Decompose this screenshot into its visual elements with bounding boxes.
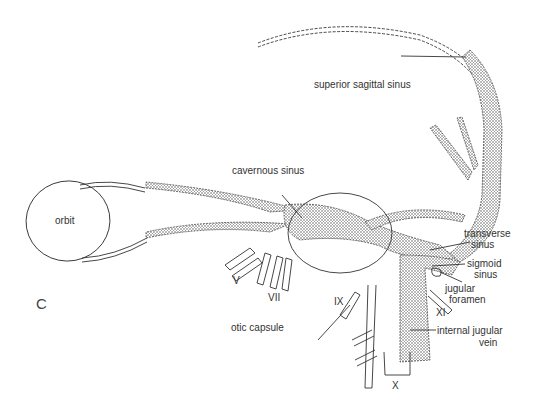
label-sigmoid-line1: sigmoid	[467, 258, 501, 269]
label-ijv-line2: vein	[479, 337, 497, 348]
label-sigmoid-line2: sinus	[474, 269, 497, 280]
label-ijv-line1: internal jugular	[437, 325, 503, 336]
label-superior-sagittal-sinus: superior sagittal sinus	[314, 79, 411, 90]
label-nerve-XI: XI	[436, 307, 445, 318]
label-nerve-IX: IX	[334, 296, 343, 307]
label-orbit: orbit	[55, 215, 74, 226]
panel-letter: C	[36, 298, 47, 309]
label-otic-capsule: otic capsule	[231, 322, 284, 333]
venous-sinus-diagram: superior sagittal sinus cavernous sinus …	[0, 0, 539, 406]
label-jugular-line2: foramen	[449, 294, 486, 305]
superior-sagittal-sinus-arc	[258, 27, 500, 120]
diagram-drawing	[0, 0, 539, 406]
label-nerve-VII: VII	[268, 292, 280, 303]
label-nerve-X: X	[392, 380, 399, 391]
label-transverse-line1: transverse	[464, 228, 511, 239]
label-jugular-line1: jugular	[445, 283, 475, 294]
label-cavernous-sinus: cavernous sinus	[232, 165, 304, 176]
label-nerve-V: V	[233, 275, 240, 286]
label-transverse-line2: sinus	[471, 239, 494, 250]
